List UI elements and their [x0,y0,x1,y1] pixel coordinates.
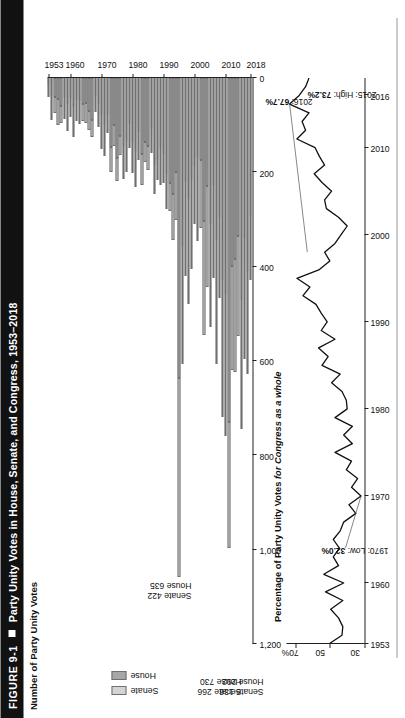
line-chart-panel: Percentage of Party Unity Votes for Cong… [270,0,405,718]
bar-segment-house [128,78,130,124]
party-unity-percentage-line [289,78,360,644]
bar-row [122,78,124,179]
bar-segment-senate [78,101,80,124]
bar-row [66,78,68,131]
bar-row [224,78,226,436]
bar-segment-house [84,78,86,103]
bar-segment-senate [224,295,226,436]
bar-year-tick-label: 2018 [246,60,265,70]
bar-year-tick [132,74,133,78]
bar-segment-house [122,78,124,146]
bar-row [115,78,117,181]
line-x-tick [364,582,368,583]
bar-year-tick [70,74,71,78]
bar-segment-senate [81,104,83,121]
line-chart-title-italic: for Congress as a whole [272,372,282,479]
bar-segment-house [190,78,192,180]
bar-segment-house [140,78,142,154]
bar-segment-senate [181,247,183,364]
line-x-tick [364,234,368,235]
bar-segment-senate [156,160,158,180]
bar-segment-senate [146,146,148,170]
line-y-tick-label: 30 [350,648,360,658]
figure-page: FIGURE 9-1 Party Unity Votes in House, S… [0,0,405,718]
bar-segment-house [205,78,207,186]
bar-segment-senate [97,104,99,127]
bar-segment-senate [134,151,136,188]
bar-row [215,78,217,364]
bar-value-tick [252,549,256,550]
bar-year-tick [250,74,251,78]
bar-row [140,78,142,185]
bar-row [63,78,65,119]
bar-segment-senate [109,147,111,172]
bar-row [125,78,127,172]
line-y-tick-label: 50 [315,648,325,658]
bar-segment-house [90,78,92,120]
bar-row [246,78,248,374]
bar-segment-house [72,78,74,107]
legend-item: Senate [111,686,158,696]
bar-segment-house [233,78,235,259]
bar-segment-senate [233,259,235,372]
line-annotation-value: 67.7% [265,97,289,107]
bar-segment-senate [215,240,217,365]
line-x-tick-label: 1970 [370,492,389,502]
bar-year-tick-label: 2000 [190,60,209,70]
bar-segment-senate [150,129,152,154]
bar-segment-house [159,78,161,148]
bar-segment-house [174,78,176,172]
bar-segment-senate [159,148,161,185]
bar-segment-house [94,78,96,95]
bar-callout-house: House 730 [197,677,241,687]
bar-segment-senate [240,300,242,429]
bar-segment-house [125,78,127,141]
bar-segment-house [249,78,251,216]
bar-segment-senate [100,115,102,149]
bar-row [69,78,71,117]
bar-segment-senate [230,266,232,370]
bar-row [202,78,204,335]
bar-value-tick [252,266,256,267]
bar-segment-house [75,78,77,100]
bar-segment-senate [122,146,124,179]
legend-label: Senate [130,686,158,696]
bar-row [236,78,238,336]
bar-segment-senate [236,237,238,337]
line-x-tick [364,495,368,496]
line-annotation: 1970: Low: 32.0% [321,546,388,556]
bar-segment-senate [56,99,58,125]
figure-number: FIGURE 9-1 [6,645,18,709]
bar-chart-legend: SenateHouse [111,669,158,696]
line-x-tick-label: 1960 [370,580,389,590]
bar-callout: Senate 266House 730 [197,677,241,696]
bar-segment-senate [205,186,207,287]
line-annotation: 2015: High: 73.2% [307,90,376,100]
bar-segment-house [215,78,217,240]
bar-segment-house [47,78,49,85]
bar-year-tick [194,74,195,78]
bar-segment-senate [115,158,117,181]
bar-segment-house [181,78,183,247]
bar-segment-senate [243,238,245,358]
bar-row [146,78,148,170]
bar-segment-house [221,78,223,280]
square-marker-icon [8,630,15,637]
bar-segment-senate [187,199,189,304]
bar-segment-senate [171,194,173,240]
bar-row [174,78,176,220]
bar-row [212,78,214,278]
bar-row [240,78,242,429]
bar-row [109,78,111,172]
bar-row [230,78,232,370]
bar-segment-house [177,78,179,378]
bar-segment-senate [125,141,127,172]
bar-segment-senate [75,100,77,121]
bar-segment-senate [212,185,214,279]
bar-segment-senate [118,136,120,155]
bar-segment-senate [53,97,55,113]
bar-segment-senate [143,142,145,163]
bar-segment-house [81,78,83,104]
bar-segment-house [171,78,173,194]
line-x-tick [364,321,368,322]
